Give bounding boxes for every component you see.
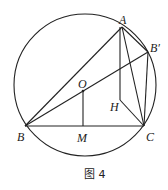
segment-AB-prime	[122, 27, 148, 52]
segment-HC	[120, 100, 144, 126]
label-C: C	[146, 130, 155, 144]
label-B: B	[17, 130, 25, 144]
label-O: O	[78, 77, 87, 91]
geometry-figure: A B′ O B C M H 图 4	[0, 0, 168, 190]
label-M: M	[76, 131, 88, 145]
label-H: H	[109, 100, 120, 114]
label-A: A	[118, 13, 127, 27]
label-B-prime: B′	[150, 41, 160, 55]
figure-caption: 图 4	[84, 168, 106, 181]
segment-B-prime-C	[144, 52, 148, 126]
